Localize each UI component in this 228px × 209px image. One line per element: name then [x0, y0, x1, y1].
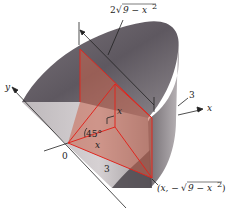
label-point-radicand: 9 − x	[188, 183, 212, 193]
label-hyp-3: 3	[104, 164, 110, 174]
label-point-close: )	[222, 183, 226, 193]
label-point-open: (x, −	[157, 183, 179, 193]
wedge-solid-diagram: 2 √ 9 − x 2 y x 3 0 45° x x 3 (x, − √ 9 …	[0, 0, 228, 209]
label-top-exp: 2	[152, 2, 157, 11]
label-x-axis: x	[207, 103, 212, 113]
point-radical-sign: √	[181, 183, 187, 193]
label-base-x: x	[95, 140, 100, 150]
label-origin: 0	[62, 151, 68, 161]
label-radius-3: 3	[189, 90, 195, 100]
label-height-x: x	[117, 106, 122, 116]
label-angle-45: 45°	[86, 129, 102, 139]
label-top-radicand: 9 − x	[123, 5, 147, 15]
label-y-axis: y	[4, 82, 11, 92]
radical-sign: √	[116, 5, 122, 15]
label-top-coef: 2	[110, 5, 116, 15]
